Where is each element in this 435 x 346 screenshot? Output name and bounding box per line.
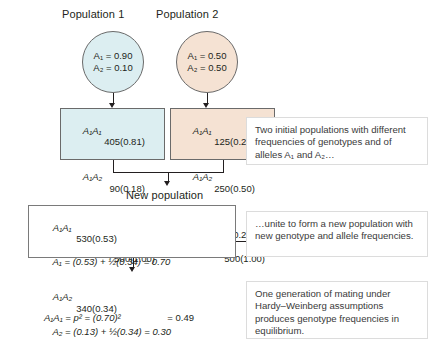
population-1-allele-2: A₂ = 0.10	[93, 62, 132, 75]
genotype-value: 530(0.53)	[53, 233, 117, 245]
caption-new-population: …unite to form a new population with new…	[246, 211, 428, 257]
figure-canvas: Population 1 Population 2 A₁ = 0.90 A₂ =…	[0, 0, 435, 346]
population-1-allele-1: A₁ = 0.90	[94, 50, 133, 63]
hardy-weinberg-equations: A₁A₁ = p² = (0.70)² = 0.49 A₁A₂ = 2pq = …	[44, 288, 194, 346]
genotype-value: 405(0.81)	[83, 136, 145, 148]
hw-expression: A₁A₁ = p² = (0.70)²	[44, 312, 148, 324]
population-2-allele-2: A₂ = 0.50	[187, 62, 226, 75]
population-1-allele-circle: A₁ = 0.90 A₂ = 0.10	[82, 31, 144, 93]
population-1-genotype-box: A₁A₁ 405(0.81) A₁A₂ 90(0.18) A₂A₂ 5(0.01…	[60, 108, 165, 160]
population-2-allele-circle: A₁ = 0.50 A₂ = 0.50	[176, 31, 238, 93]
population-1-title: Population 1	[62, 8, 124, 20]
population-2-title: Population 2	[156, 8, 218, 20]
hw-row: A₁A₁ = p² = (0.70)² = 0.49	[44, 312, 194, 324]
merge-arrow-head	[164, 181, 170, 186]
genotype-row: A₁A₁ 405(0.81)	[67, 113, 158, 159]
allele-equation-1: A₁ = (0.53) + ½(0.34) = 0.70	[52, 256, 170, 267]
genotype-label: A₁A₁	[83, 125, 109, 137]
arrow-to-equations-head	[129, 267, 135, 272]
genotype-label: A₁A₁	[193, 125, 219, 137]
hw-result: = 0.49	[148, 312, 194, 324]
genotype-label: A₁A₁	[53, 222, 81, 234]
caption-initial-populations: Two initial populations with different f…	[246, 117, 428, 165]
new-population-title: New population	[126, 189, 203, 201]
population-2-allele-1: A₁ = 0.50	[188, 50, 227, 63]
caption-equilibrium: One generation of mating under Hardy–Wei…	[246, 281, 428, 339]
genotype-label: A₁A₂	[83, 171, 109, 183]
new-population-box: A₁A₁ 530(0.53) A₁ = (0.53) + ½(0.34) = 0…	[28, 205, 236, 258]
